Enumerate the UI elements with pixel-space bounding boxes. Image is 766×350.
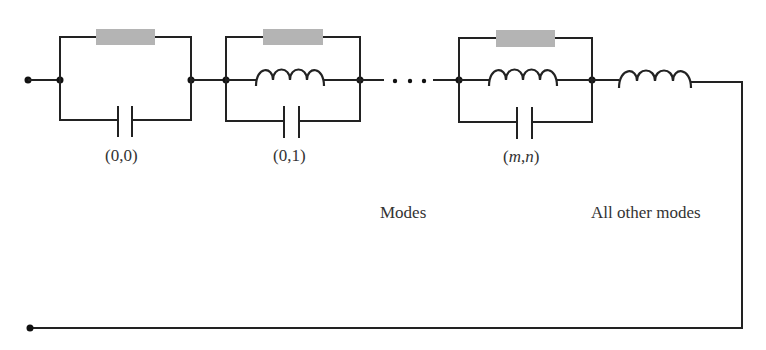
inductor-icon	[489, 70, 557, 87]
stage-m-n	[456, 30, 596, 139]
wire	[299, 80, 360, 121]
bottom-left-terminal	[27, 325, 34, 332]
stage-label-0-1: (0,1)	[273, 146, 306, 166]
wire	[459, 80, 517, 122]
resistor-icon	[96, 29, 155, 45]
stage-label-m-n: (m,n)	[503, 147, 539, 167]
wire	[226, 80, 284, 121]
resistor-icon	[263, 29, 323, 45]
series-inductor-icon	[619, 71, 691, 89]
wire	[132, 80, 191, 120]
wire	[155, 37, 191, 80]
wire	[60, 80, 118, 120]
wire	[459, 38, 496, 80]
wire	[555, 38, 592, 80]
circuit-diagram	[0, 0, 766, 350]
modes-caption: Modes	[380, 203, 426, 223]
wire	[323, 37, 360, 80]
all-other-modes-caption: All other modes	[591, 203, 701, 223]
stage-label-0-0: (0,0)	[105, 146, 138, 166]
wire	[226, 37, 263, 80]
wire	[532, 80, 592, 122]
stage-0-1	[223, 29, 364, 138]
stage-0-0	[57, 29, 195, 137]
resistor-icon	[496, 30, 555, 47]
ellipsis-dots	[393, 79, 426, 83]
inductor-icon	[256, 70, 324, 87]
wire	[60, 37, 96, 80]
